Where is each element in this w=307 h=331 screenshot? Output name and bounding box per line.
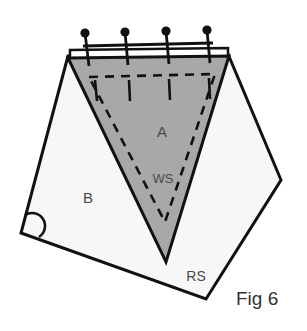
pin-3-head xyxy=(161,26,170,35)
figure-container: Sewing pattern diagram: triangular piece… xyxy=(0,0,307,331)
label-piece-a: A xyxy=(157,123,167,140)
pin-alignment-rail-line xyxy=(83,43,213,46)
tick-3-mark xyxy=(169,79,170,100)
label-piece-b: B xyxy=(83,189,93,206)
sewing-diagram-svg: Sewing pattern diagram: triangular piece… xyxy=(0,0,307,331)
figure-caption: Fig 6 xyxy=(236,288,278,309)
pin-1-head xyxy=(80,28,89,37)
pin-4-head xyxy=(202,25,211,34)
tick-4-mark xyxy=(209,78,210,99)
pin-2-head xyxy=(120,27,129,36)
label-wrong-side: WS xyxy=(153,171,174,186)
tick-2-mark xyxy=(129,80,130,101)
label-right-side: RS xyxy=(186,268,205,284)
